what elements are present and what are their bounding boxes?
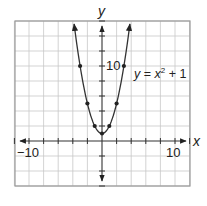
data-point: [78, 64, 82, 68]
data-point: [122, 64, 126, 68]
y-tick-label-10: 10: [106, 58, 120, 73]
x-tick-label-10: 10: [166, 145, 180, 160]
data-point: [115, 101, 119, 105]
parabola-chart: y x −10 10 10 y = x2 + 1: [0, 0, 207, 206]
equation-label: y = x2 + 1: [133, 66, 186, 81]
y-axis-label: y: [97, 3, 106, 19]
x-axis-label: x: [192, 133, 201, 149]
data-point: [100, 131, 104, 135]
data-point: [93, 124, 97, 128]
data-point: [85, 101, 89, 105]
data-point: [107, 124, 111, 128]
x-tick-label-neg10: −10: [17, 145, 39, 160]
